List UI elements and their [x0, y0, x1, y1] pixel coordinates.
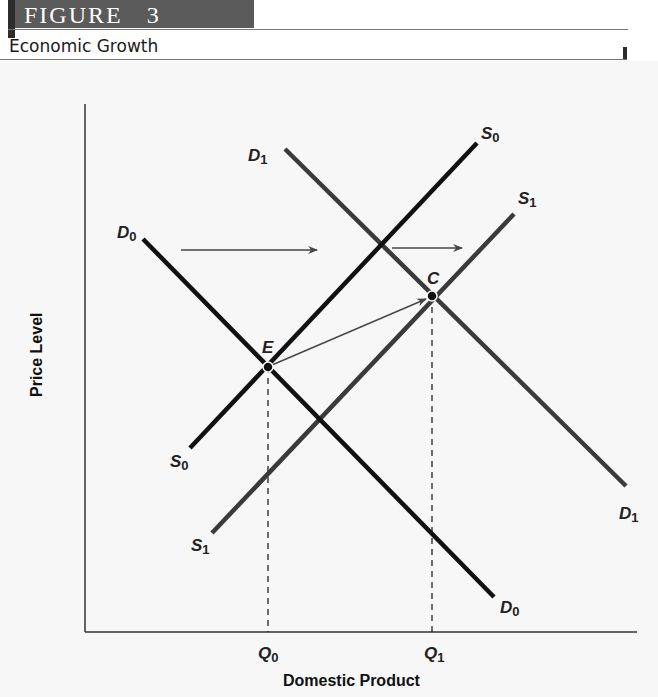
- label-s0-top: S0: [481, 124, 500, 145]
- label-d1-bottom: D1: [619, 504, 639, 525]
- tick-label-q1: Q1: [424, 644, 444, 665]
- label-d1-top: D1: [248, 146, 268, 167]
- label-s1-bottom: S1: [191, 536, 210, 557]
- label-d0-bottom: D0: [500, 598, 520, 619]
- point-e: [263, 362, 273, 372]
- label-s1-top: S1: [518, 189, 537, 210]
- x-axis-label: Domestic Product: [283, 672, 420, 690]
- supply-demand-diagram: D0 D1 S0 S1 S0 S1 D0 D1 E C Q0 Q1: [0, 0, 658, 697]
- label-point-c: C: [427, 269, 440, 288]
- y-axis-label: Price Level: [28, 313, 46, 398]
- label-point-e: E: [262, 338, 274, 357]
- label-d0-top: D0: [117, 223, 137, 244]
- point-c: [427, 291, 437, 301]
- label-s0-bottom: S0: [170, 452, 189, 473]
- tick-label-q0: Q0: [258, 644, 278, 665]
